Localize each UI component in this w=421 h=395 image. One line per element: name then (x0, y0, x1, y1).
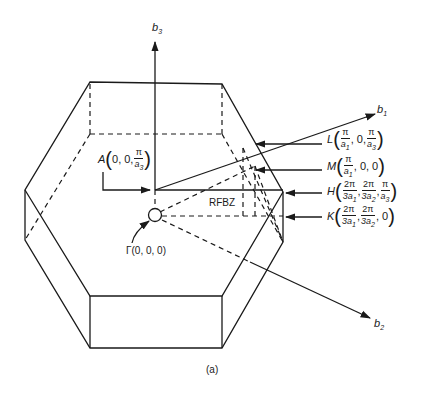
prism-outline (25, 82, 283, 348)
point-L-label: L( πa1 , 0, πa3) (327, 128, 384, 151)
b1-label: b1 (377, 104, 387, 117)
point-K-label: K( 2π3a1, 2π3a2 , 0) (327, 205, 395, 228)
hidden-edges (25, 84, 283, 262)
figure-caption: (a) (206, 365, 218, 375)
gamma-pointer-arrow (132, 221, 149, 243)
b2-axis (250, 262, 370, 318)
A-pointer-arrow (103, 172, 150, 190)
point-H-label: H( 2π3a1, 2π3a2, πa3) (327, 180, 397, 203)
rfbz-label: RFBZ (209, 198, 235, 208)
point-M-label: M( πa1 , 0, 0) (327, 155, 385, 178)
b3-label: b3 (152, 22, 162, 35)
b1-axis (155, 114, 375, 190)
b2-label: b2 (374, 318, 384, 331)
top-face-front-edges (25, 190, 283, 296)
point-gamma-label: Γ(0, 0, 0) (126, 246, 166, 256)
gamma-point-marker (149, 209, 162, 222)
point-A-label: A(0, 0, πa3) (98, 148, 151, 171)
